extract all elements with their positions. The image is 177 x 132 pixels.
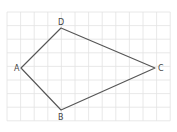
grid xyxy=(7,12,170,121)
vertex-label-b: B xyxy=(58,113,64,122)
vertex-label-d: D xyxy=(58,18,64,27)
quadrilateral-abcd xyxy=(21,28,155,110)
vertex-label-a: A xyxy=(14,64,20,73)
vertex-label-c: C xyxy=(158,64,164,73)
kite-diagram: A D C B xyxy=(0,0,177,132)
